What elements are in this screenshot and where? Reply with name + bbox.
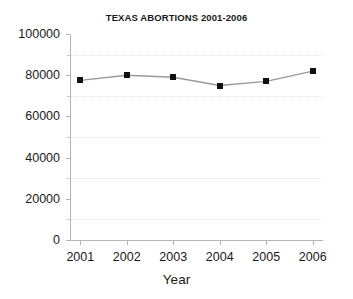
y-tick-label: 100000 [0,27,60,41]
x-tick-label: 2003 [159,250,187,264]
y-tick-major [66,34,71,35]
gridline-minor [71,96,322,98]
chart-figure: TEXAS ABORTIONS 2001-2006 20012002200320… [0,0,353,299]
x-tick [220,240,221,245]
y-tick-major [66,240,71,241]
y-tick-major [66,116,71,117]
y-tick-minor [67,55,71,56]
x-axis-line [70,240,323,241]
data-point-marker [217,83,223,89]
data-point-marker [310,68,316,74]
y-tick-minor [67,96,71,97]
gridline-minor [71,55,322,57]
x-tick [313,240,314,245]
y-tick-label: 0 [0,233,60,247]
chart-title: TEXAS ABORTIONS 2001-2006 [0,12,353,23]
data-point-marker [170,74,176,80]
y-tick-major [66,158,71,159]
y-tick-label: 40000 [0,151,60,165]
data-point-marker [124,72,130,78]
y-tick-minor [67,178,71,179]
data-point-marker [263,78,269,84]
x-tick-label: 2002 [113,250,141,264]
x-tick [173,240,174,245]
y-tick-label: 60000 [0,109,60,123]
gridline-minor [71,178,322,180]
gridline-minor [71,219,322,221]
y-tick-major [66,199,71,200]
y-tick-label: 20000 [0,192,60,206]
gridline-minor [71,137,322,139]
x-tick [127,240,128,245]
data-point-marker [77,77,83,83]
y-tick-major [66,75,71,76]
x-axis-title: Year [0,272,353,287]
x-tick-label: 2006 [299,250,327,264]
plot-area: 200120022003200420052006 [71,34,322,240]
x-tick-label: 2001 [66,250,94,264]
x-tick [80,240,81,245]
y-tick-minor [67,137,71,138]
y-tick-label: 80000 [0,68,60,82]
y-tick-minor [67,219,71,220]
x-tick [266,240,267,245]
x-tick-label: 2005 [252,250,280,264]
x-tick-label: 2004 [206,250,234,264]
